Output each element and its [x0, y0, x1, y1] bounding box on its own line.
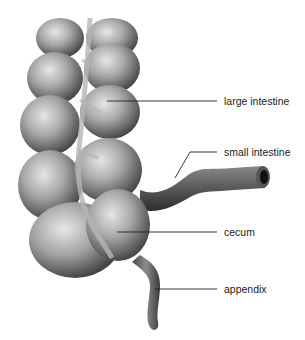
label-small-intestine: small intestine	[224, 146, 291, 158]
appendix-shape	[132, 255, 160, 330]
large-intestine-shape	[18, 18, 150, 278]
label-large-intestine: large intestine	[224, 95, 289, 107]
small-intestine-shape	[140, 166, 270, 211]
label-appendix: appendix	[224, 283, 267, 295]
label-cecum: cecum	[224, 226, 255, 238]
